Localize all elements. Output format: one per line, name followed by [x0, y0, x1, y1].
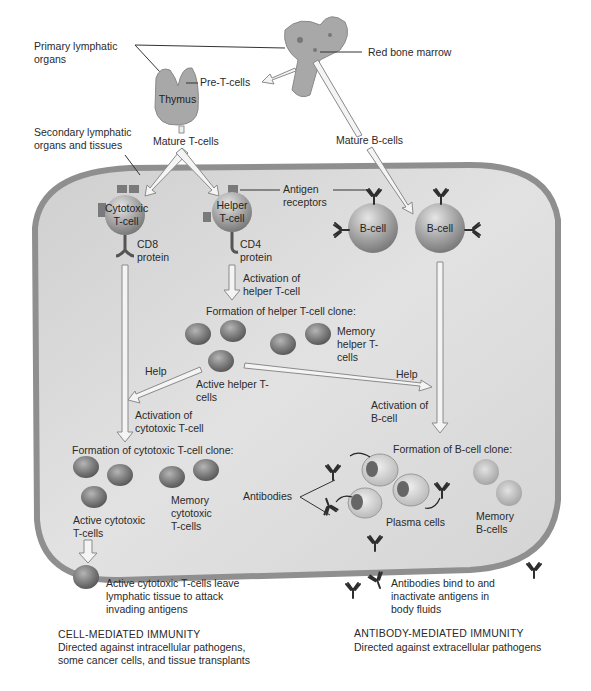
label-help-left: Help — [145, 365, 167, 378]
heading-antibody-mediated: ANTIBODY-MEDIATED IMMUNITY — [354, 627, 524, 640]
label-memory-helper: Memory helper T-cells — [337, 325, 387, 364]
label-cd8-protein: CD8 protein — [137, 238, 177, 264]
label-red-bone-marrow: Red bone marrow — [368, 46, 451, 59]
label-pre-t-cells: Pre-T-cells — [200, 76, 250, 89]
primary-organs-leader — [135, 45, 285, 72]
arrow-bone-to-thymus — [262, 68, 296, 84]
desc-antibody-mediated: Directed against extracellular pathogens — [354, 641, 541, 654]
label-b-clone: Formation of B-cell clone: — [393, 443, 512, 456]
label-helper-t-cell: Helper T-cell — [212, 199, 252, 225]
antibody-icon — [527, 563, 541, 578]
label-activation-b: Activation of B-cell — [371, 399, 441, 425]
label-help-right: Help — [396, 368, 418, 381]
label-memory-b-cells: Memory B-cells — [476, 510, 521, 536]
arrow-bone-to-b-cell — [313, 60, 362, 137]
heading-cell-mediated: CELL-MEDIATED IMMUNITY — [58, 628, 200, 641]
label-helper-clone: Formation of helper T-cell clone: — [206, 305, 356, 318]
label-cytotoxic-clone: Formation of cytotoxic T-cell clone: — [72, 444, 233, 457]
label-antigen-receptors: Antigen receptors — [283, 183, 343, 209]
label-cytotoxic-t-cell: Cytotoxic T-cell — [105, 202, 147, 228]
label-mature-t-cells: Mature T-cells — [153, 135, 219, 148]
label-cd4-protein: CD4 protein — [240, 238, 280, 264]
label-thymus: Thymus — [155, 93, 200, 106]
label-active-helper: Active helper T-cells — [196, 378, 271, 404]
label-active-cytotoxic: Active cytotoxic T-cells — [73, 514, 153, 540]
label-plasma-cells: Plasma cells — [386, 516, 445, 529]
label-memory-cytotoxic: Memory cytotoxic T-cells — [171, 494, 221, 533]
exiting-cytotoxic-t-cell — [73, 565, 99, 589]
label-b-cell-2: B-cell — [420, 222, 460, 235]
label-secondary-organs: Secondary lymphatic organs and tissues — [34, 126, 144, 152]
label-antibodies-bind: Antibodies bind to and inactivate antige… — [391, 577, 501, 616]
label-activation-cytotoxic: Activation of cytotoxic T-cell — [135, 409, 220, 435]
label-cytotoxic-leave: Active cytotoxic T-cells leave lymphatic… — [106, 577, 256, 616]
antibody-icon — [346, 583, 360, 598]
label-primary-organs: Primary lymphatic organs — [34, 40, 124, 66]
label-b-cell-1: B-cell — [353, 222, 393, 235]
desc-cell-mediated: Directed against intracellular pathogens… — [58, 641, 258, 667]
label-activation-helper: Activation of helper T-cell — [243, 272, 318, 298]
label-mature-b-cells: Mature B-cells — [336, 134, 403, 147]
immune-diagram-canvas — [0, 0, 591, 691]
red-bone-marrow-illustration — [285, 17, 348, 97]
label-antibodies: Antibodies — [243, 490, 292, 503]
